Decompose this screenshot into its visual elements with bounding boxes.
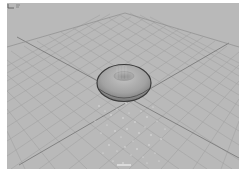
3d-viewport[interactable] — [7, 3, 239, 169]
torus-object[interactable] — [97, 65, 151, 102]
perspective-grid — [7, 3, 239, 169]
xyz-axis-icon — [7, 3, 21, 9]
camera-name-label — [117, 164, 131, 166]
